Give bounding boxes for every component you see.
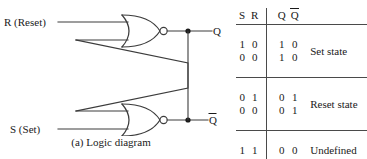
cell-description: Reset state	[301, 91, 367, 117]
group-spacer	[236, 64, 367, 78]
rule-cell-desc	[301, 131, 367, 145]
spacer-cell-desc	[301, 157, 367, 159]
rule-cell-r	[248, 78, 261, 92]
spacer-cell-s	[236, 64, 248, 78]
sr-latch-figure: R (Reset) S (Set) Q Q (a) Logic diagram …	[0, 0, 367, 159]
table-row: 0 1 0 1 Reset state	[236, 91, 367, 104]
spacer-cell-r	[248, 157, 261, 159]
spacer-cell-q	[267, 64, 289, 78]
cell-s: 0	[236, 104, 248, 117]
rule-cell-qbar	[288, 78, 301, 92]
cell-q: 1	[267, 38, 289, 51]
spacer-cell-qbar	[288, 157, 301, 159]
spacer-cell-r	[248, 117, 261, 131]
cell-q: 0	[267, 91, 289, 104]
nor-bubble-bottom	[160, 116, 167, 123]
cell-q: 0	[267, 104, 289, 117]
spacer-cell-q	[267, 117, 289, 131]
bottom-spacer	[236, 157, 367, 159]
cell-description: Set state	[301, 38, 367, 64]
table-header-row: S R Q Q	[236, 8, 367, 25]
rule-cell-s	[236, 131, 248, 145]
cell-r: 1	[248, 91, 261, 104]
logic-diagram-panel: R (Reset) S (Set) Q Q (a) Logic diagram	[0, 0, 222, 159]
caption-logic-diagram: (a) Logic diagram	[0, 136, 222, 148]
logic-diagram-svg: R (Reset) S (Set) Q Q	[0, 0, 222, 136]
cell-description: Undefined	[301, 144, 367, 157]
rule-cell-r	[248, 131, 261, 145]
rule-cell-desc	[301, 78, 367, 92]
spacer-cell-desc	[301, 64, 367, 78]
function-table-panel: S R Q Q 1	[228, 0, 367, 159]
col-header-qbar: Q	[288, 8, 301, 25]
cell-r: 0	[248, 38, 261, 51]
col-header-qbar-text: Q	[291, 8, 299, 22]
col-header-description	[301, 8, 367, 25]
cell-s: 1	[236, 38, 248, 51]
cell-s: 0	[236, 51, 248, 64]
rule-between-groups-2	[236, 131, 367, 145]
output-label-q: Q	[213, 25, 221, 37]
rule-cell-s	[236, 78, 248, 92]
col-header-s: S	[236, 8, 248, 25]
col-header-r: R	[248, 8, 261, 25]
nor-gate-top	[122, 15, 160, 47]
spacer-cell-q	[267, 157, 289, 159]
rule-cell-desc	[301, 25, 367, 39]
cell-r: 1	[248, 144, 261, 157]
spacer-cell-s	[236, 117, 248, 131]
nor-gate-bottom	[122, 104, 160, 136]
rule-cell-s	[236, 25, 248, 39]
rule-cell-r	[248, 25, 261, 39]
input-label-set: S (Set)	[10, 123, 41, 136]
col-header-q: Q	[267, 8, 289, 25]
input-label-reset: R (Reset)	[4, 16, 46, 29]
rule-between-groups-1	[236, 78, 367, 92]
cell-q: 0	[267, 144, 289, 157]
table-row: 1 0 1 0 Set state	[236, 38, 367, 51]
rule-under-header	[236, 25, 367, 39]
cell-q: 1	[267, 51, 289, 64]
spacer-cell-desc	[301, 117, 367, 131]
spacer-cell-s	[236, 157, 248, 159]
output-label-qbar-group: Q	[209, 114, 218, 127]
rule-cell-qbar	[288, 25, 301, 39]
cell-qbar: 0	[288, 51, 301, 64]
function-table: S R Q Q 1	[236, 8, 367, 159]
rule-cell-q	[267, 25, 289, 39]
spacer-cell-r	[248, 64, 261, 78]
cell-r: 0	[248, 51, 261, 64]
rule-cell-qbar	[288, 131, 301, 145]
spacer-cell-qbar	[288, 64, 301, 78]
spacer-cell-qbar	[288, 117, 301, 131]
cell-qbar: 1	[288, 91, 301, 104]
table-row: 1 1 0 0 Undefined	[236, 144, 367, 157]
nor-bubble-top	[160, 27, 167, 34]
rule-cell-q	[267, 78, 289, 92]
cell-qbar: 0	[288, 144, 301, 157]
output-label-qbar: Q	[209, 114, 217, 126]
cell-qbar: 0	[288, 38, 301, 51]
rule-cell-q	[267, 131, 289, 145]
cell-r: 0	[248, 104, 261, 117]
cell-s: 0	[236, 91, 248, 104]
cell-qbar: 1	[288, 104, 301, 117]
cell-s: 1	[236, 144, 248, 157]
group-spacer	[236, 117, 367, 131]
